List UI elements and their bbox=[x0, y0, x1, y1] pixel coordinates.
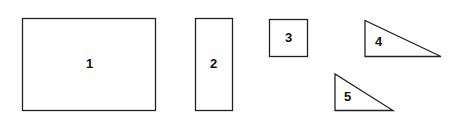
shape-2-rectangle: 2 bbox=[196, 19, 233, 111]
shape-2-label: 2 bbox=[210, 56, 217, 71]
shape-1-rectangle: 1 bbox=[23, 19, 156, 111]
shape-4-label: 4 bbox=[375, 34, 383, 49]
shape-3-square: 3 bbox=[270, 20, 308, 57]
shapes-diagram: 1 2 3 4 5 bbox=[0, 0, 460, 119]
shape-1-label: 1 bbox=[86, 56, 93, 71]
shape-3-label: 3 bbox=[285, 30, 292, 45]
shape-4-triangle: 4 bbox=[365, 21, 441, 57]
shape-5-triangle: 5 bbox=[335, 74, 393, 111]
shape-5-label: 5 bbox=[344, 89, 351, 104]
